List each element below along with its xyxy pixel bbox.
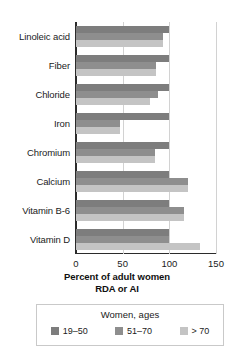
legend-label: 51–70 [127, 326, 152, 336]
legend-swatch [115, 327, 123, 335]
bar [76, 142, 169, 149]
category-axis-labels: Linoleic acid Fiber Chloride Iron Chromi… [0, 22, 73, 254]
bar-group [76, 200, 216, 221]
bar-group [76, 113, 216, 134]
x-axis-line [75, 253, 216, 254]
legend-label: > 70 [192, 326, 210, 336]
legend: Women, ages 19–5051–70> 70 [36, 304, 224, 346]
bars-canvas [76, 22, 216, 254]
bar-group [76, 55, 216, 76]
bar [76, 149, 155, 156]
legend-swatch [51, 327, 59, 335]
bar [76, 185, 188, 192]
category-label: Linoleic acid [19, 32, 70, 42]
bar-chart-figure: Linoleic acid Fiber Chloride Iron Chromi… [0, 0, 234, 354]
bar-group [76, 26, 216, 47]
legend-items: 19–5051–70> 70 [37, 326, 223, 336]
bar [76, 200, 169, 207]
x-axis-title: Percent of adult women RDA or AI [0, 271, 234, 295]
category-label: Chloride [35, 90, 70, 100]
bar [76, 84, 169, 91]
bar [76, 40, 163, 47]
legend-item: > 70 [180, 326, 210, 336]
x-axis-title-line2: RDA or AI [0, 283, 234, 295]
x-tick-label: 150 [208, 258, 224, 269]
bar [76, 98, 150, 105]
category-label: Calcium [36, 177, 70, 187]
bar [76, 214, 184, 221]
x-tick-label: 50 [117, 258, 128, 269]
bar [76, 207, 184, 214]
category-label: Vitamin B-6 [22, 206, 70, 216]
legend-item: 19–50 [51, 326, 88, 336]
bar-group [76, 229, 216, 250]
category-label: Fiber [49, 61, 70, 71]
bar [76, 156, 155, 163]
bar [76, 33, 163, 40]
bar [76, 236, 169, 243]
bar [76, 91, 158, 98]
bar-group [76, 171, 216, 192]
bar [76, 26, 169, 33]
bar-group [76, 142, 216, 163]
bar [76, 55, 169, 62]
plot-area: Linoleic acid Fiber Chloride Iron Chromi… [0, 22, 234, 254]
category-label: Chromium [27, 148, 70, 158]
x-tick-label: 0 [73, 258, 78, 269]
bar-group [76, 84, 216, 105]
bar [76, 69, 156, 76]
legend-swatch [180, 327, 188, 335]
legend-label: 19–50 [63, 326, 88, 336]
category-label: Vitamin D [30, 235, 70, 245]
bar [76, 120, 120, 127]
bar [76, 127, 120, 134]
x-axis-ticks: 050100150 [76, 258, 216, 270]
bar [76, 171, 169, 178]
bar [76, 178, 188, 185]
category-label: Iron [54, 119, 70, 129]
bar [76, 243, 200, 250]
x-tick-label: 100 [161, 258, 177, 269]
gridline [216, 22, 217, 254]
bar [76, 62, 156, 69]
x-axis-title-line1: Percent of adult women [64, 271, 170, 282]
bar [76, 113, 169, 120]
bar [76, 229, 169, 236]
legend-item: 51–70 [115, 326, 152, 336]
legend-title: Women, ages [37, 309, 223, 321]
